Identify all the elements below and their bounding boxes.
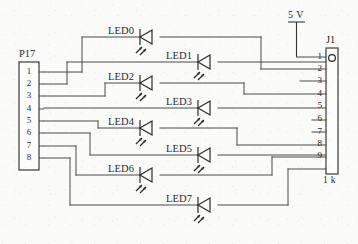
led-diode-icon xyxy=(136,75,152,101)
schematic-canvas: P17 1 2 3 4 5 6 7 8 J1 1 2 3 4 5 6 7 8 9… xyxy=(0,0,358,244)
led4-label: LED4 xyxy=(108,117,134,128)
led-diode-icon xyxy=(136,120,152,146)
j1-pin-9-label: 9 xyxy=(308,151,322,160)
led-diode-icon xyxy=(194,54,210,80)
j1-pin-1-label: 1 xyxy=(308,52,322,61)
j1-pin-7-label: 7 xyxy=(308,127,322,136)
led1-label: LED1 xyxy=(166,51,192,62)
led-diode-icon xyxy=(194,147,210,173)
connector-j1-value-label: 1 k xyxy=(323,176,336,186)
j1-pin-2-label: 2 xyxy=(308,64,322,73)
p17-pin-6-label: 6 xyxy=(23,128,35,137)
p17-pin-4-label: 4 xyxy=(23,104,35,113)
led7-label: LED7 xyxy=(166,194,192,205)
led-diode-icon xyxy=(194,197,210,223)
led-diode-icon xyxy=(136,167,152,193)
connector-j1-ref-label: J1 xyxy=(326,35,335,46)
j1-pin-8-label: 8 xyxy=(308,139,322,148)
connector-p17-ref-label: P17 xyxy=(19,49,35,60)
led-diode-icon xyxy=(136,29,152,55)
p17-pin-2-label: 2 xyxy=(23,79,35,88)
led0-label: LED0 xyxy=(108,26,134,37)
p17-pin-5-label: 5 xyxy=(23,116,35,125)
p17-pin-1-label: 1 xyxy=(23,67,35,76)
j1-pin-6-label: 6 xyxy=(308,114,322,123)
net-led1 xyxy=(44,62,326,84)
j1-pin-3-label: 3 xyxy=(308,76,322,85)
j1-pin-4-label: 4 xyxy=(308,89,322,98)
led-diode-icon xyxy=(194,100,210,126)
schematic-drawing xyxy=(0,0,358,244)
p17-pin-7-label: 7 xyxy=(23,141,35,150)
p17-pin-8-label: 8 xyxy=(23,153,35,162)
j1-pin-5-label: 5 xyxy=(308,101,322,110)
led5-label: LED5 xyxy=(166,144,192,155)
supply-voltage-label: 5 V xyxy=(288,10,304,20)
led6-label: LED6 xyxy=(108,164,134,175)
connector-j1-body[interactable] xyxy=(326,48,338,174)
led3-label: LED3 xyxy=(166,97,192,108)
led2-label: LED2 xyxy=(108,72,134,83)
net-led2 xyxy=(44,83,326,96)
p17-pin-3-label: 3 xyxy=(23,91,35,100)
